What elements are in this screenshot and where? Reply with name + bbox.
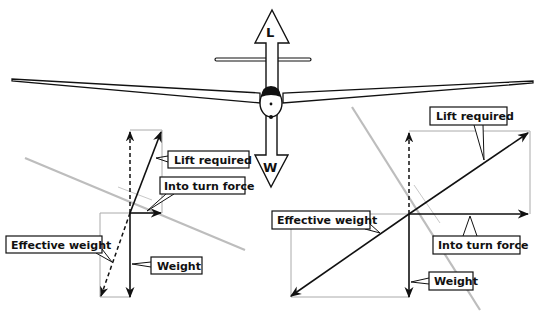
right-label-effective-weight: Effective weight	[272, 211, 380, 233]
svg-text:Weight: Weight	[434, 275, 478, 288]
left-label-lift-required: Lift required	[156, 151, 252, 168]
right-label-weight: Weight	[411, 272, 478, 290]
svg-text:Into turn force: Into turn force	[438, 239, 529, 252]
right-lift-required-arrow	[409, 133, 528, 214]
right-wing	[283, 81, 533, 103]
tailplane	[215, 58, 311, 61]
svg-text:Effective weight: Effective weight	[11, 239, 111, 252]
left-force-diagram: Lift required Into turn force Effective …	[6, 130, 255, 297]
right-force-diagram: Lift required Into turn force Effective …	[272, 107, 530, 310]
lift-symbol: L	[266, 25, 274, 40]
right-tail-line	[414, 185, 440, 223]
left-wing	[12, 79, 260, 103]
svg-text:Lift required: Lift required	[174, 154, 252, 167]
weight-symbol: W	[263, 160, 277, 175]
left-lift-required-arrow	[130, 132, 161, 213]
svg-text:Weight: Weight	[157, 260, 201, 273]
left-label-weight: Weight	[132, 257, 202, 274]
weight-arrow: W	[255, 110, 288, 187]
glider: L W	[12, 10, 533, 187]
svg-text:Effective weight: Effective weight	[277, 214, 377, 227]
svg-text:Into turn force: Into turn force	[164, 180, 255, 193]
left-label-effective-weight: Effective weight	[6, 236, 112, 262]
right-label-into-turn-force: Into turn force	[433, 216, 529, 254]
glider-turn-forces-diagram: L W	[0, 0, 541, 314]
svg-text:Lift required: Lift required	[436, 110, 514, 123]
fuselage	[260, 86, 282, 119]
left-label-into-turn-force: Into turn force	[147, 177, 255, 211]
